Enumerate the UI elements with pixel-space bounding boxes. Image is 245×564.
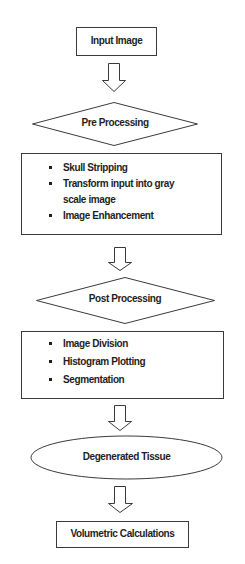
volumetric-calculations-label: Volumetric Calculations [56,528,189,539]
list-item: Histogram Plotting [49,353,209,371]
list-item: Segmentation [49,371,209,389]
pre-steps-list: Skull Stripping Transform input into gra… [49,160,209,224]
list-item: Image Enhancement [49,208,209,224]
list-item: Transform input into gray scale image [49,176,183,208]
arrow-down-icon [109,406,132,431]
arrow-down-icon [103,64,126,92]
arrow-down-icon [109,248,132,271]
degenerated-tissue-label: Degenerated Tissue [31,451,222,462]
arrow-down-icon [109,487,133,513]
list-item: Image Division [49,335,209,353]
post-processing-label: Post Processing [36,293,214,304]
pre-processing-label: Pre Processing [32,117,198,128]
post-steps-list: Image Division Histogram Plotting Segmen… [49,335,209,389]
list-item: Skull Stripping [49,160,209,176]
input-image-label: Input Image [76,35,157,46]
flowchart-canvas [0,0,245,564]
